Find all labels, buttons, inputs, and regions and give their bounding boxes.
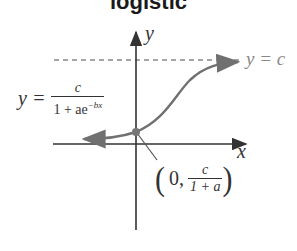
asymptote-label: y = c bbox=[246, 48, 285, 70]
intercept-point bbox=[132, 128, 140, 136]
y-axis-label: y bbox=[145, 22, 154, 45]
logistic-curve-left bbox=[84, 132, 136, 139]
equation-numerator: c bbox=[75, 80, 81, 96]
x-axis-label: x bbox=[237, 140, 246, 163]
denominator-exponent: −bx bbox=[88, 100, 103, 110]
intercept-denominator: 1 + a bbox=[188, 178, 222, 195]
denominator-base: 1 + ae bbox=[53, 102, 87, 117]
close-paren: ) bbox=[222, 162, 232, 195]
intercept-numerator: c bbox=[202, 162, 208, 178]
equation-lhs: y = bbox=[18, 87, 45, 110]
intercept-label: ( 0, c 1 + a ) bbox=[155, 162, 232, 195]
intercept-leader bbox=[137, 133, 157, 160]
intercept-fraction: c 1 + a bbox=[188, 162, 222, 195]
logistic-curve bbox=[136, 62, 238, 132]
equation-fraction: c 1 + ae−bx bbox=[51, 80, 104, 118]
open-paren: ( bbox=[155, 162, 165, 195]
equation-denominator: 1 + ae−bx bbox=[51, 96, 104, 118]
logistic-equation: y = c 1 + ae−bx bbox=[18, 80, 104, 118]
intercept-x: 0, bbox=[169, 167, 184, 190]
